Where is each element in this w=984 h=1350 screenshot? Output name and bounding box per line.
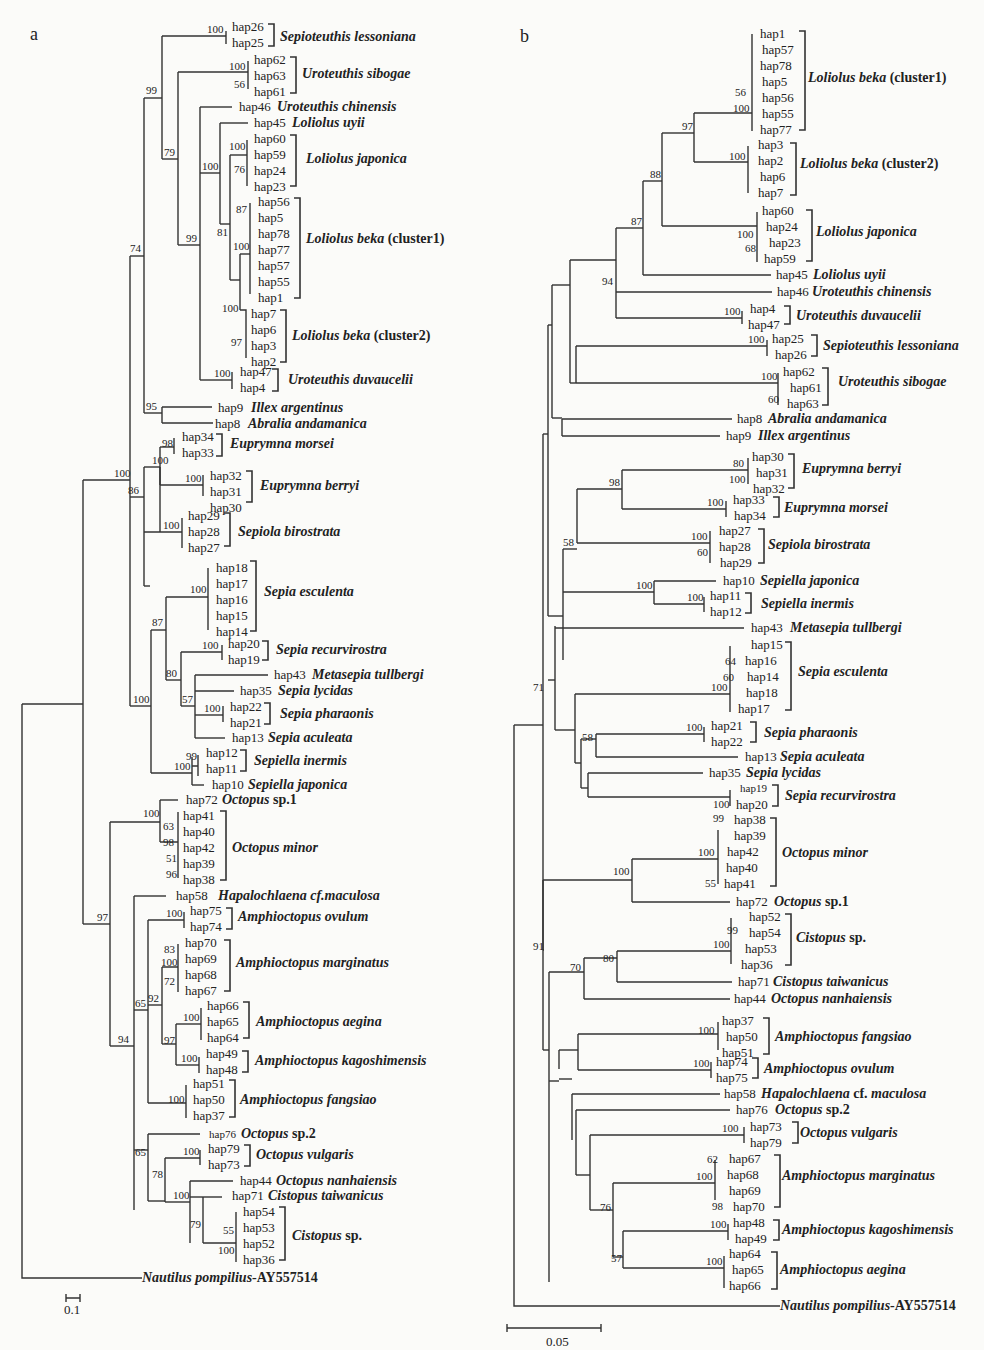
bootstrap: 57	[182, 693, 194, 705]
haplotype-label: hap36	[243, 1252, 275, 1267]
haplotype-label: hap26	[232, 19, 264, 34]
bootstrap: 100	[143, 807, 160, 819]
haplotype-label: hap2	[758, 153, 783, 168]
haplotype-label: hap10	[212, 777, 244, 792]
haplotype-label: hap24	[766, 219, 798, 234]
species-label: Amphioctopus marginatus	[781, 1168, 935, 1183]
species-label: Octopus nanhaiensis	[771, 991, 893, 1006]
species-label: Loliolus uyii	[812, 267, 886, 282]
bootstrap: 62	[707, 1153, 718, 1165]
clade-bracket	[806, 210, 812, 261]
haplotype-label: hap77	[258, 242, 290, 257]
clade-bracket	[220, 811, 226, 880]
clade-bracket	[758, 529, 764, 563]
clade-bracket	[294, 198, 300, 298]
haplotype-label: hap6	[760, 169, 786, 184]
bootstrap: 100	[133, 693, 150, 705]
branch	[240, 310, 246, 358]
clade-bracket	[799, 31, 805, 130]
clade-bracket	[272, 369, 278, 391]
species-label: Sepioteuthis lessoniana	[280, 29, 416, 44]
haplotype-label: hap38	[183, 872, 215, 887]
haplotype-label: hap49	[735, 1231, 767, 1246]
haplotype-label: hap29	[188, 508, 220, 523]
bootstrap: 100	[636, 579, 653, 591]
bootstrap: 60	[768, 393, 780, 405]
haplotype-label: hap52	[243, 1236, 275, 1251]
haplotype-label: hap8	[737, 411, 762, 426]
species-label: Cistopus taiwanicus	[268, 1188, 384, 1203]
species-label: Amphioctopus aegina	[779, 1262, 906, 1277]
haplotype-label: hap48	[733, 1215, 765, 1230]
bootstrap: 97	[231, 336, 243, 348]
bootstrap: 63	[163, 820, 175, 832]
bootstrap: 100	[218, 1244, 235, 1256]
clade-bracket	[811, 335, 817, 356]
haplotype-label: hap1	[258, 290, 283, 305]
haplotype-label: hap50	[193, 1092, 225, 1107]
species-label: Sepiola birostrata	[238, 524, 340, 539]
haplotype-label: hap20	[736, 797, 768, 812]
bootstrap: 100	[686, 721, 703, 733]
haplotype-label: hap58	[176, 888, 208, 903]
bootstrap: 100	[733, 102, 750, 114]
bootstrap: 94	[602, 275, 614, 287]
haplotype-label: hap63	[254, 68, 286, 83]
haplotype-label: hap29	[720, 555, 752, 570]
species-label: Sepiola birostrata	[768, 537, 870, 552]
species-label: Euprymna morsei	[783, 500, 888, 515]
clade-bracket	[216, 434, 222, 456]
haplotype-label: hap53	[745, 941, 777, 956]
bootstrap: 60	[697, 546, 709, 558]
haplotype-label: hap67	[185, 983, 217, 998]
clade-bracket	[773, 1220, 779, 1240]
bootstrap: 100	[691, 530, 708, 542]
haplotype-label: hap65	[207, 1014, 239, 1029]
bootstrap: 76	[600, 1201, 612, 1213]
bootstrap: 79	[190, 1218, 202, 1230]
haplotype-label: hap23	[254, 179, 286, 194]
species-label: Sepia recurvirostra	[785, 788, 896, 803]
species-label: Amphioctopus aegina	[255, 1014, 382, 1029]
clade-bracket	[772, 785, 778, 806]
species-label: Sepia lycidas	[746, 765, 822, 780]
bootstrap: 100	[183, 1145, 200, 1157]
bootstrap: 100	[713, 798, 730, 810]
species-label: Amphioctopus marginatus	[235, 955, 389, 970]
haplotype-label: hap31	[756, 465, 788, 480]
haplotype-label: hap71	[232, 1188, 264, 1203]
haplotype-label: hap74	[190, 919, 222, 934]
haplotype-label: hap77	[760, 122, 792, 137]
species-label: Uroteuthis sibogae	[838, 374, 947, 389]
bootstrap: 100	[229, 140, 246, 152]
species-label: Loliolus beka (cluster2)	[799, 156, 939, 172]
haplotype-label: hap28	[719, 539, 751, 554]
haplotype-label: hap50	[726, 1029, 758, 1044]
haplotype-label: hap48	[206, 1062, 238, 1077]
bootstrap: 99	[186, 232, 198, 244]
bootstrap: 99	[727, 924, 739, 936]
species-label: Amphioctopus fangsiao	[774, 1029, 912, 1044]
species-label: Sepiella inermis	[254, 753, 348, 768]
bootstrap: 65	[135, 1146, 147, 1158]
species-label: Uroteuthis chinensis	[277, 99, 397, 114]
haplotype-label: hap39	[183, 856, 215, 871]
haplotype-label: hap66	[729, 1278, 761, 1293]
scale-bar-a	[66, 1294, 80, 1302]
bootstrap: 100	[114, 467, 131, 479]
clade-bracket	[763, 1018, 769, 1054]
haplotype-label: hap44	[734, 991, 766, 1006]
bootstrap: 98	[712, 1200, 724, 1212]
haplotype-label: hap64	[207, 1030, 239, 1045]
bootstrap: 64	[725, 655, 737, 667]
species-label: Uroteuthis sibogae	[302, 66, 411, 81]
species-label: Euprymna berryi	[801, 461, 901, 476]
bootstrap: 100	[173, 1189, 190, 1201]
haplotype-label: hap69	[185, 951, 217, 966]
haplotype-label: hap78	[258, 226, 290, 241]
clade-bracket	[784, 306, 790, 324]
panel-b: b Nautilus pompilius-AY557514 71 91 94 8…	[507, 26, 959, 1349]
bootstrap: 100	[729, 473, 746, 485]
haplotype-label: hap60	[254, 131, 286, 146]
species-label: Abralia andamanica	[767, 411, 887, 426]
